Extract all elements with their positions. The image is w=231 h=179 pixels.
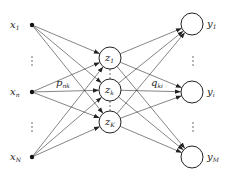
edge-zK-yM: [120, 126, 181, 152]
input-label-xN: xN: [10, 151, 22, 163]
output-label-y1: y1: [206, 18, 216, 30]
output-node-y1: [181, 13, 203, 35]
edge-xN-z1: [33, 67, 103, 155]
input-node-x1: [30, 23, 34, 27]
neural-network-diagram: x1xnxNz1zkzKy1yiyMpnkqki: [0, 0, 231, 179]
output-label-yM: yM: [206, 151, 220, 163]
edge-zk-yi: [121, 90, 181, 91]
ellipsis-icon: [192, 60, 193, 61]
output-node-yM: [181, 146, 203, 168]
ellipsis-icon: [192, 126, 193, 127]
ellipsis-icon: [31, 56, 32, 57]
ellipsis-icon: [192, 56, 193, 57]
ellipsis-icon: [31, 126, 32, 127]
output-node-yi: [181, 81, 203, 103]
edge-zK-y1: [117, 33, 185, 114]
edge-zk-yM: [119, 97, 184, 150]
input-label-xn: xn: [10, 86, 20, 98]
edge-xN-zk: [34, 97, 102, 155]
input-label-x1: x1: [10, 19, 19, 31]
edge-x1-zK: [33, 27, 103, 113]
weight-label-q: qki: [151, 77, 163, 89]
ellipsis-icon: [31, 130, 32, 131]
edge-x1-zk: [34, 26, 102, 82]
edge-zK-yi: [120, 96, 181, 118]
input-node-xN: [30, 155, 34, 159]
edge-z1-y1: [120, 28, 181, 53]
ellipsis-icon: [31, 122, 32, 123]
weight-label-p: pnk: [56, 77, 70, 89]
edge-xN-zK: [34, 127, 100, 156]
ellipsis-icon: [192, 64, 193, 65]
edge-zk-y1: [119, 31, 183, 83]
ellipsis-icon: [192, 122, 193, 123]
edge-xn-zk: [34, 90, 99, 92]
ellipsis-icon: [31, 64, 32, 65]
input-node-xn: [30, 90, 34, 94]
output-label-yi: yi: [206, 86, 215, 98]
ellipsis-icon: [192, 130, 193, 131]
ellipsis-icon: [31, 60, 32, 61]
